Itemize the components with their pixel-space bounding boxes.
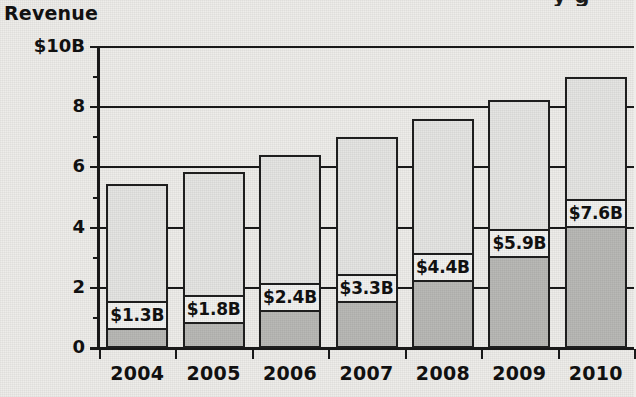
x-tick-2008 bbox=[405, 349, 407, 359]
x-axis-label-2007: 2007 bbox=[328, 362, 404, 384]
bar-value-label-2008: $4.4B bbox=[412, 253, 474, 282]
bar-segment-lower-2008[interactable] bbox=[412, 279, 474, 348]
y-tick-8 bbox=[90, 106, 99, 108]
y-tick-4 bbox=[90, 227, 99, 229]
x-tick-2005 bbox=[175, 349, 177, 359]
y-tick-label-8: 8 bbox=[0, 95, 85, 116]
x-axis-label-2008: 2008 bbox=[405, 362, 481, 384]
bar-2008[interactable] bbox=[412, 119, 474, 348]
bar-segment-lower-2010[interactable] bbox=[565, 225, 627, 348]
y-tick-label-6: 6 bbox=[0, 155, 85, 176]
y-minor-tick-9 bbox=[93, 76, 99, 78]
x-tick-2009 bbox=[481, 349, 483, 359]
x-tick-2004 bbox=[99, 349, 101, 359]
y-tick-6 bbox=[90, 166, 99, 168]
y-tick-2 bbox=[90, 287, 99, 289]
bar-value-label-2007: $3.3B bbox=[336, 274, 398, 303]
plot-area: $1.3B$1.8B$2.4B$3.3B$4.4B$5.9B$7.6B bbox=[99, 47, 634, 348]
x-tick-2006 bbox=[252, 349, 254, 359]
x-tick-2007 bbox=[328, 349, 330, 359]
bar-value-label-2006: $2.4B bbox=[259, 283, 321, 312]
bar-2007[interactable] bbox=[336, 137, 398, 348]
y-minor-tick-5 bbox=[93, 197, 99, 199]
y-axis-title: Revenue bbox=[4, 2, 98, 24]
bar-2009[interactable] bbox=[488, 100, 550, 348]
x-axis-label-2009: 2009 bbox=[481, 362, 557, 384]
bar-segment-lower-2006[interactable] bbox=[259, 309, 321, 348]
x-axis-label-2010: 2010 bbox=[558, 362, 634, 384]
x-axis-label-2005: 2005 bbox=[175, 362, 251, 384]
y-tick-label-0: 0 bbox=[0, 336, 85, 357]
bar-segment-lower-2005[interactable] bbox=[183, 321, 245, 348]
y-tick-label-2: 2 bbox=[0, 276, 85, 297]
x-axis-label-2006: 2006 bbox=[252, 362, 328, 384]
bar-segment-lower-2004[interactable] bbox=[106, 327, 168, 348]
bar-value-label-2005: $1.8B bbox=[183, 295, 245, 324]
x-axis-label-2004: 2004 bbox=[99, 362, 175, 384]
bar-segment-lower-2009[interactable] bbox=[488, 255, 550, 348]
bar-value-label-2009: $5.9B bbox=[488, 229, 550, 258]
bar-value-label-2004: $1.3B bbox=[106, 301, 168, 330]
y-tick-0 bbox=[90, 347, 99, 349]
x-tick-2010 bbox=[558, 349, 560, 359]
gridline-10 bbox=[99, 46, 634, 48]
y-minor-tick-3 bbox=[93, 257, 99, 259]
y-tick-10 bbox=[90, 46, 99, 48]
y-tick-label-10: $10B bbox=[0, 35, 85, 56]
y-tick-label-4: 4 bbox=[0, 216, 85, 237]
y-minor-tick-7 bbox=[93, 136, 99, 138]
bar-segment-lower-2007[interactable] bbox=[336, 300, 398, 348]
bar-2006[interactable] bbox=[259, 155, 321, 348]
gridline-8 bbox=[99, 106, 634, 108]
y-minor-tick-1 bbox=[93, 317, 99, 319]
bar-value-label-2010: $7.6B bbox=[565, 199, 627, 228]
